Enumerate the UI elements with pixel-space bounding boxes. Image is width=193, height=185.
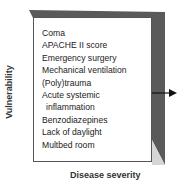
risk-factor: Mechanical ventilation (42, 64, 151, 76)
risk-factor: Lack of daylight (42, 126, 151, 138)
risk-factor: Multbed room (42, 139, 151, 151)
risk-factor: (Poly)trauma (42, 77, 151, 89)
risk-factor: Benzodiazepines (42, 114, 151, 126)
y-axis-label: Vulnerability (4, 65, 14, 119)
risk-factor: Acute systemic (42, 89, 151, 101)
risk-factor-box: Coma APACHE II score Emergency surgery M… (33, 17, 152, 162)
arrow-head-icon (169, 89, 177, 97)
risk-factor-continued: inflammation (42, 101, 151, 113)
risk-factor: Coma (42, 27, 151, 39)
risk-factor: Emergency surgery (42, 52, 151, 64)
risk-factor: APACHE II score (42, 39, 151, 51)
x-axis-label: Disease severity (70, 170, 141, 180)
